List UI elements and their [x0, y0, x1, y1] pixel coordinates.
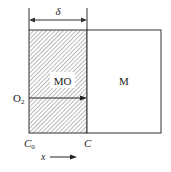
delta-arrow-right-icon	[81, 18, 87, 23]
oxygen-label: O2	[13, 92, 25, 106]
oxide-label: MO	[54, 75, 72, 87]
delta-arrow-left-icon	[29, 18, 35, 23]
c0-label: C0	[24, 137, 35, 151]
oxidation-layer-diagram: MO M δ O2 C0 C x	[0, 0, 171, 172]
metal-label: M	[119, 75, 129, 87]
c-label: C	[84, 137, 92, 149]
delta-label: δ	[55, 5, 61, 17]
x-axis-label: x	[40, 151, 46, 162]
x-axis-arrowhead-icon	[70, 155, 77, 160]
